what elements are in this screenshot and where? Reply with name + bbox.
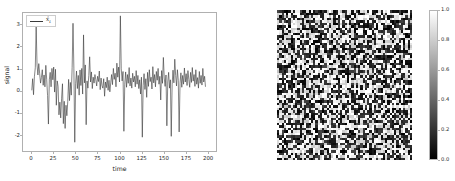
colorbar-tick-mark: [438, 100, 440, 101]
colorbar-tick-mark: [438, 40, 440, 41]
x-tick-label: 75: [94, 156, 101, 161]
legend: x̂t: [26, 15, 56, 27]
x-tick-mark: [120, 152, 121, 154]
x-axis-ticklabels: 0255075100125150175200: [0, 156, 230, 165]
x-tick-mark: [53, 152, 54, 154]
y-tick-mark: [20, 91, 22, 92]
colorbar-tick-label: 1.0: [441, 7, 449, 12]
heatmap-panel: 1.00.80.60.40.20.0: [230, 0, 455, 181]
colorbar-tick-label: 0.2: [441, 127, 449, 132]
x-axis-label: time: [22, 166, 217, 172]
colorbar: [429, 10, 438, 160]
signal-line-plot-panel: x̂t -2-10123 0255075100125150175200 time…: [0, 0, 230, 181]
legend-label-subscript: t: [49, 20, 51, 25]
x-tick-label: 125: [137, 156, 147, 161]
colorbar-tick-label: 0.0: [441, 157, 449, 162]
x-tick-mark: [142, 152, 143, 154]
x-tick-label: 50: [72, 156, 79, 161]
colorbar-tick-mark: [438, 10, 440, 11]
x-tick-label: 100: [114, 156, 124, 161]
heatmap-axes: [277, 10, 412, 160]
x-tick-label: 150: [159, 156, 169, 161]
x-tick-mark: [31, 152, 32, 154]
colorbar-tick-mark: [438, 160, 440, 161]
y-tick-mark: [20, 135, 22, 136]
x-tick-mark: [208, 152, 209, 154]
x-tick-label: 0: [29, 156, 32, 161]
colorbar-tick-label: 0.8: [441, 37, 449, 42]
x-tick-mark: [75, 152, 76, 154]
x-tick-label: 175: [181, 156, 191, 161]
colorbar-tick-mark: [438, 130, 440, 131]
x-tick-mark: [97, 152, 98, 154]
colorbar-gradient: [430, 11, 437, 159]
matplotlib-figure: x̂t -2-10123 0255075100125150175200 time…: [0, 0, 455, 181]
y-tick-mark: [20, 46, 22, 47]
x-tick-label: 200: [203, 156, 213, 161]
x-tick-label: 25: [50, 156, 57, 161]
signal-axes: [22, 12, 217, 152]
y-axis-label: signal: [4, 55, 10, 95]
legend-label-symbol: x̂: [46, 16, 49, 22]
y-tick-mark: [20, 69, 22, 70]
y-tick-mark: [20, 113, 22, 114]
x-tick-mark: [164, 152, 165, 154]
x-tick-mark: [186, 152, 187, 154]
colorbar-tick-mark: [438, 70, 440, 71]
colorbar-tick-label: 0.6: [441, 67, 449, 72]
y-tick-mark: [20, 24, 22, 25]
colorbar-tick-label: 0.4: [441, 97, 449, 102]
legend-label: x̂t: [46, 17, 51, 24]
heatmap-image: [277, 10, 412, 160]
legend-line-swatch: [30, 21, 43, 22]
colorbar-ticklabels: 1.00.80.60.40.20.0: [439, 0, 455, 181]
signal-line-path: [23, 13, 216, 151]
